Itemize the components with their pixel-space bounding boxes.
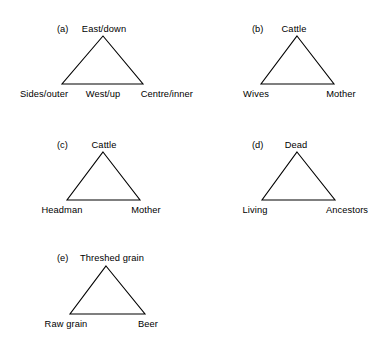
- triangle-diagram-c: (c) Cattle Headman Mother: [0, 116, 200, 226]
- bottom-right-label-c: Mother: [131, 205, 161, 216]
- bottom-right-label-d: Ancestors: [326, 205, 368, 216]
- bottom-left-label-a: Sides/outer: [20, 89, 68, 100]
- triangle-diagram-b: (b) Cattle Wives Mother: [200, 0, 382, 110]
- bottom-right-label-a: Centre/inner: [141, 89, 193, 100]
- triangle-diagram-a: (a) East/down Sides/outer West/up Centre…: [0, 0, 200, 110]
- figure-canvas: (a) East/down Sides/outer West/up Centre…: [0, 0, 382, 341]
- bottom-left-label-d: Living: [243, 205, 268, 216]
- triangle-diagram-e: (e) Threshed grain Raw grain Beer: [0, 230, 200, 341]
- bottom-left-label-b: Wives: [243, 89, 269, 100]
- bottom-left-label-c: Headman: [41, 205, 82, 216]
- triangle-shape-c: [0, 116, 200, 226]
- bottom-right-label-e: Beer: [138, 319, 158, 330]
- triangle-diagram-d: (d) Dead Living Ancestors: [200, 116, 382, 226]
- bottom-center-label-a: West/up: [86, 89, 121, 100]
- triangle-shape-e: [0, 230, 200, 341]
- bottom-right-label-b: Mother: [326, 89, 356, 100]
- bottom-left-label-e: Raw grain: [45, 319, 88, 330]
